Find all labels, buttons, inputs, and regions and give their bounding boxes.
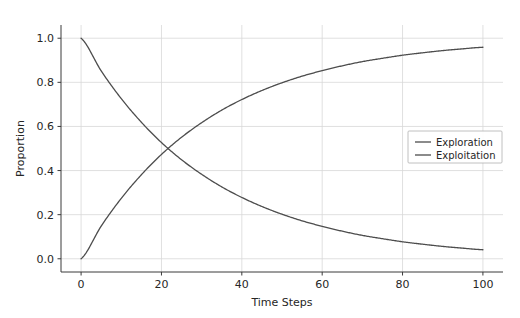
xtick-label-4: 80 xyxy=(396,278,410,291)
xtick-label-1: 20 xyxy=(154,278,168,291)
ytick-label-5: 1.0 xyxy=(37,32,55,45)
xtick-label-2: 40 xyxy=(235,278,249,291)
ytick-label-3: 0.6 xyxy=(37,120,55,133)
xtick-label-5: 100 xyxy=(472,278,493,291)
ytick-label-2: 0.4 xyxy=(37,165,55,178)
chart-figure: 0.00.20.40.60.81.0 020406080100 Proporti… xyxy=(0,0,520,318)
ytick-label-0: 0.0 xyxy=(37,253,55,266)
xtick-label-0: 0 xyxy=(78,278,85,291)
chart-legend[interactable]: ExplorationExploitation xyxy=(408,131,502,163)
legend-label-exploitation: Exploitation xyxy=(436,150,495,161)
line-chart: 0.00.20.40.60.81.0 020406080100 Proporti… xyxy=(0,0,520,318)
ytick-label-4: 0.8 xyxy=(37,76,55,89)
y-axis-title: Proportion xyxy=(14,120,27,177)
xtick-label-3: 60 xyxy=(315,278,329,291)
legend-label-exploration: Exploration xyxy=(436,137,493,148)
ytick-label-1: 0.2 xyxy=(37,209,55,222)
x-axis-title: Time Steps xyxy=(250,296,312,309)
